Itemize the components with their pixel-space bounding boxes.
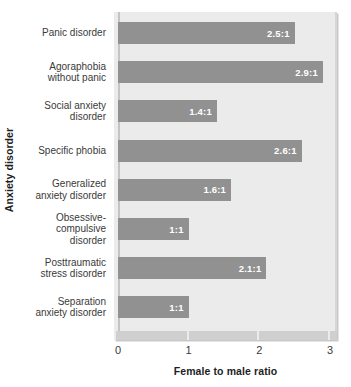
- bar: 1.4:1: [118, 100, 217, 122]
- bar: 2.9:1: [118, 61, 323, 83]
- x-tick-label: 0: [108, 344, 128, 356]
- bar: 1:1: [118, 218, 189, 240]
- x-tick-mark: [328, 331, 330, 340]
- bar: 2.5:1: [118, 22, 295, 44]
- category-label: Panic disorder: [14, 27, 106, 39]
- category-label: Social anxiety disorder: [14, 100, 106, 123]
- x-tick-label: 2: [249, 344, 269, 356]
- x-axis-title: Female to male ratio: [114, 365, 337, 377]
- x-tick-mark: [187, 331, 189, 340]
- category-label: Specific phobia: [14, 145, 106, 157]
- x-tick-label: 1: [179, 344, 199, 356]
- bar: 2.1:1: [118, 257, 266, 279]
- bar-chart-figure: Anxiety disorder Panic disorderAgoraphob…: [0, 0, 351, 387]
- plot-area: 2.5:12.9:11.4:12.6:11.6:11:12.1:11:1: [114, 12, 337, 340]
- x-axis-tick-labels: 0123: [114, 344, 337, 360]
- bar-value-label: 2.6:1: [274, 145, 302, 156]
- bar-value-label: 2.9:1: [295, 67, 323, 78]
- bar: 1.6:1: [118, 179, 231, 201]
- bar: 2.6:1: [118, 140, 302, 162]
- plot-inner: 2.5:12.9:11.4:12.6:11.6:11:12.1:11:1: [114, 12, 337, 340]
- x-tick-label: 3: [320, 344, 340, 356]
- x-tick-mark: [257, 331, 259, 340]
- category-label: Agoraphobia without panic: [14, 61, 106, 84]
- category-label: Obsessive- compulsive disorder: [14, 212, 106, 247]
- bar-value-label: 1.4:1: [189, 106, 217, 117]
- bar: 1:1: [118, 296, 189, 318]
- y-axis-title: Anxiety disorder: [0, 0, 18, 340]
- category-label: Posttraumatic stress disorder: [14, 257, 106, 280]
- bar-value-label: 1:1: [169, 224, 188, 235]
- x-axis-band: [116, 331, 337, 340]
- bar-value-label: 1.6:1: [203, 184, 231, 195]
- bar-value-label: 1:1: [169, 302, 188, 313]
- category-label: Separation anxiety disorder: [14, 296, 106, 319]
- category-label-column: Panic disorderAgoraphobia without panicS…: [18, 12, 110, 340]
- bar-value-label: 2.1:1: [239, 263, 267, 274]
- bar-value-label: 2.5:1: [267, 28, 295, 39]
- category-label: Generalized anxiety disorder: [14, 178, 106, 201]
- right-axis-spine: [335, 12, 337, 340]
